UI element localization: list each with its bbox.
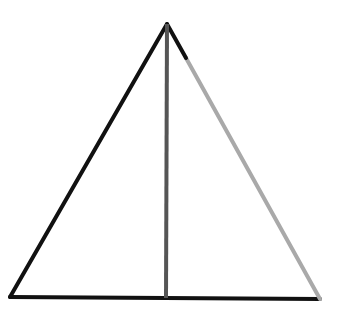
right-side-upper-line (167, 24, 186, 58)
right-side-lower-line (186, 58, 320, 299)
triangle-diagram (0, 0, 348, 325)
diagram-canvas (0, 0, 348, 325)
left-side-line (10, 24, 167, 297)
vertical-segment-line (166, 24, 167, 298)
